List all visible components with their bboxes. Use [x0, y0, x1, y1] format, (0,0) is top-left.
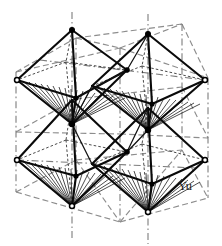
node-equator-upper-right: [150, 102, 154, 106]
node-bridge-mid-upper: [125, 68, 129, 72]
corner-label: Yu: [178, 180, 192, 193]
node-shared-upper-right: [145, 127, 150, 132]
cell-edge-mid-front-left: [16, 132, 120, 134]
node-corner-left-upper: [15, 78, 20, 83]
hatch-fan-upper-right: [92, 86, 200, 130]
unit-cell-frame: [16, 12, 208, 244]
node-corner-right-upper: [203, 78, 208, 83]
node-apex-bottom-left: [70, 204, 75, 209]
node-corner-right-lower: [203, 158, 208, 163]
node-shared-upper-left: [69, 121, 74, 126]
cell-edge-top-front-right: [120, 48, 208, 78]
crystal-structure-figure: Yu: [0, 0, 222, 246]
node-apex-top-left: [70, 28, 75, 33]
cell-edge-mid-front-right: [120, 134, 208, 138]
node-equator-upper-left: [74, 96, 78, 100]
node-apex-top-right: [146, 32, 151, 37]
node-corner-left-lower: [15, 158, 20, 163]
node-apex-bottom-right: [146, 210, 151, 215]
cell-edge-top-back: [76, 24, 182, 38]
cell-axis-diag-upper: [40, 60, 205, 80]
cell-edge-mid-back-right: [182, 87, 208, 138]
node-equator-lower-right: [150, 182, 154, 186]
cell-edge-top-diagonal: [76, 38, 120, 48]
node-equator-lower-left: [74, 174, 78, 178]
lattice-diagram-svg: [0, 0, 222, 246]
node-bridge-mid-lower: [125, 150, 129, 154]
cell-edge-bottom-front-left: [16, 192, 120, 222]
cell-edge-top-front-left: [16, 48, 120, 72]
